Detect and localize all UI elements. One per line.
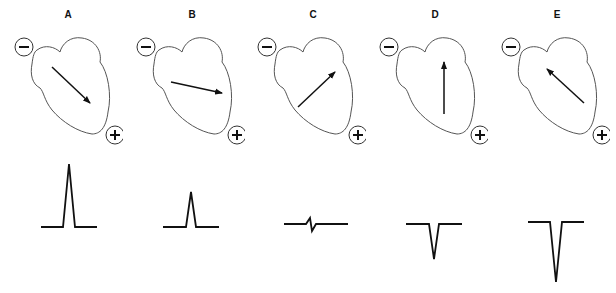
- panel-b: B: [122, 0, 245, 293]
- vector-arrow-icon: [171, 82, 222, 93]
- heart-vector-graphic: [365, 0, 488, 293]
- negative-electrode-icon: [258, 38, 276, 56]
- heart-vector-graphic: [487, 0, 610, 293]
- positive-electrode-icon: [106, 126, 123, 144]
- heart-vector-graphic: [122, 0, 245, 293]
- positive-electrode-icon: [349, 126, 366, 144]
- ecg-waveform: [406, 224, 462, 259]
- heart-vector-graphic: [0, 0, 123, 293]
- positive-electrode-icon: [593, 126, 610, 144]
- negative-electrode-icon: [137, 38, 155, 56]
- heart-outline: [31, 38, 109, 134]
- vector-arrow-icon: [547, 69, 584, 103]
- ecg-waveform: [284, 218, 348, 231]
- heart-outline: [274, 38, 352, 134]
- negative-electrode-icon: [502, 38, 520, 56]
- ecg-waveform: [528, 222, 584, 282]
- positive-electrode-icon: [471, 126, 488, 144]
- panel-d: D: [365, 0, 488, 293]
- negative-electrode-icon: [15, 38, 33, 56]
- heart-outline: [153, 38, 231, 134]
- panel-e: E: [487, 0, 610, 293]
- panel-a: A: [0, 0, 123, 293]
- ecg-waveform: [41, 164, 97, 227]
- panel-c: C: [243, 0, 366, 293]
- heart-outline: [518, 38, 596, 134]
- vector-arrow-icon: [298, 72, 335, 107]
- vector-arrow-icon: [52, 67, 90, 103]
- heart-vector-graphic: [243, 0, 366, 293]
- negative-electrode-icon: [380, 38, 398, 56]
- heart-outline: [396, 38, 474, 134]
- ecg-waveform: [163, 192, 219, 227]
